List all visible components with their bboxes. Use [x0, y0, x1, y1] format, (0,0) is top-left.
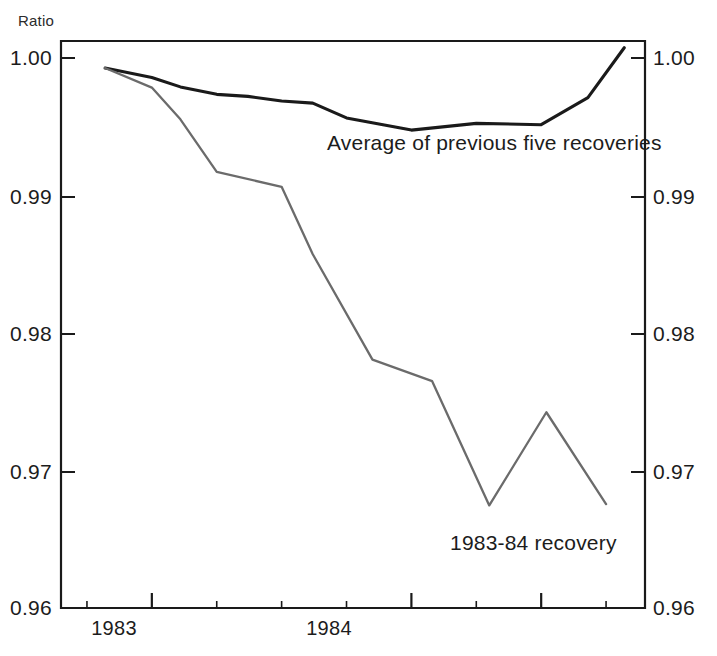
x-axis-ticks: [87, 593, 606, 608]
y-axis-ticks-left: [61, 58, 75, 472]
y-axis-ticks-right: [631, 58, 645, 472]
chart-figure: Ratio 1.00 0.99 0.98 0.97 0.96 1.00 0.99…: [0, 0, 717, 656]
series-line-average: [105, 48, 624, 130]
series-line-recovery: [105, 68, 606, 505]
plot-canvas: [0, 0, 717, 656]
